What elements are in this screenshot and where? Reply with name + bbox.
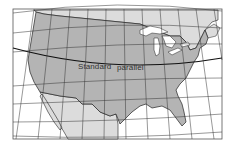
standard-label: Standard [78,62,111,71]
map-canvas [0,0,235,151]
parallel-label: parallel [117,63,144,72]
